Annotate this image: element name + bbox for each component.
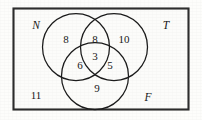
venn-diagram-figure: N T F 8 10 9 8 6 5 3 11 [0,0,202,120]
region-count-n-only: 8 [63,33,69,45]
set-label-n: N [31,19,41,31]
region-count-n-and-t: 8 [92,33,98,45]
region-count-all-three: 3 [92,50,98,62]
venn-diagram-canvas: N T F 8 10 9 8 6 5 3 11 [0,0,202,120]
region-count-f-only: 9 [94,82,100,94]
region-count-t-and-f: 5 [107,59,113,71]
region-count-outside-all: 11 [31,89,42,101]
region-count-n-and-f: 6 [77,59,83,71]
region-count-t-only: 10 [119,33,131,45]
set-label-f: F [143,91,152,103]
